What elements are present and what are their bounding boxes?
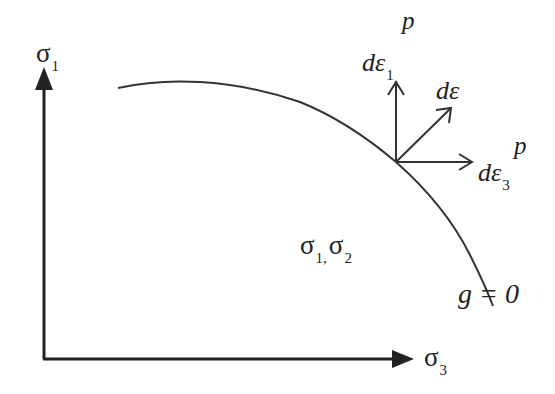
yield-curve <box>118 81 493 306</box>
subscript: 3 <box>440 362 448 378</box>
axes <box>35 67 414 368</box>
d-epsilon: dε <box>478 158 501 187</box>
d-epsilon: dε <box>362 48 385 77</box>
sigma3-arrowhead-icon <box>392 350 414 368</box>
sigma3-axis-label: σ3 <box>424 344 447 371</box>
subscript: 1, <box>316 250 327 266</box>
de1p-label: dε1 <box>362 50 394 76</box>
sigma-symbol: σ <box>424 342 439 372</box>
de3p-superscript: p <box>514 133 527 158</box>
sigma-symbol: σ <box>300 230 315 260</box>
sigma1-arrowhead-icon <box>35 67 53 90</box>
subscript: 3 <box>502 177 510 193</box>
region-label: σ1,σ2 <box>300 232 352 259</box>
curve-label: g = 0 <box>458 280 519 308</box>
subscript: 2 <box>344 250 352 266</box>
de3p-label: dε3 <box>478 160 510 186</box>
sigma1-axis-label: σ1 <box>36 40 59 67</box>
subscript: 1 <box>52 58 60 74</box>
de-label: dε <box>436 78 459 104</box>
de-vector <box>396 108 451 162</box>
sigma-symbol: σ <box>329 230 344 260</box>
subscript: 1 <box>386 67 394 83</box>
sigma-symbol: σ <box>36 38 51 68</box>
de1p-superscript: p <box>402 8 415 33</box>
strain-vectors <box>388 82 472 170</box>
diagram-canvas <box>0 0 555 394</box>
